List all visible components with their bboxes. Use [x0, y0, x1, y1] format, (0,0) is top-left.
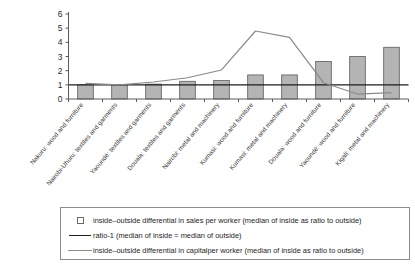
y-tick-label: 4: [58, 37, 63, 47]
x-category-label: Nairobi: metal and machinery: [161, 101, 222, 171]
chart-legend: inside–outside differential in sales per…: [60, 207, 410, 260]
category-labels: Nakuru: wood and furnitureNairobi-Uhuru:…: [29, 101, 392, 188]
bar: [146, 84, 162, 99]
y-tick-label: 5: [58, 23, 63, 33]
bar: [112, 85, 128, 99]
legend-label-ratio-one: ratio-1 (median of inside = median of ou…: [93, 231, 242, 241]
legend-label-capital: inside–outside differential in capitalpe…: [93, 246, 364, 256]
legend-line-ratio-one-icon: [67, 235, 93, 236]
x-category-label: Nairobi-Uhuru: textiles and garments: [45, 101, 119, 187]
legend-line-capital-icon: [67, 250, 93, 251]
y-tick-label: 2: [58, 66, 63, 76]
y-tick-label: 0: [58, 94, 63, 104]
bar: [384, 47, 400, 99]
y-tick-label: 1: [58, 80, 63, 90]
x-category-label: Douala: textiles and garments: [126, 101, 187, 172]
bar: [78, 85, 94, 99]
bar: [248, 75, 264, 99]
legend-entry-sales: inside–outside differential in sales per…: [67, 213, 403, 228]
bar: [214, 81, 230, 99]
y-tick-label: 3: [58, 52, 63, 62]
x-category-label: Yaoundé: wood and furniture: [298, 101, 357, 169]
x-category-label: Yaoundé: textiles and garments: [88, 101, 153, 176]
x-category-label: Kumasi: metal and machinery: [228, 101, 290, 172]
legend-entry-capital: inside–outside differential in capitalpe…: [67, 243, 403, 258]
y-tick-label: 6: [58, 9, 63, 19]
bar: [282, 75, 298, 99]
bar: [316, 61, 332, 99]
legend-label-sales: inside–outside differential in sales per…: [93, 216, 362, 226]
bar: [180, 81, 196, 99]
legend-entry-ratio-one: ratio-1 (median of inside = median of ou…: [67, 228, 403, 243]
bar-series: [78, 47, 400, 99]
legend-swatch-sales: [67, 217, 93, 224]
x-category-label: Nakuru: wood and furniture: [29, 101, 85, 166]
